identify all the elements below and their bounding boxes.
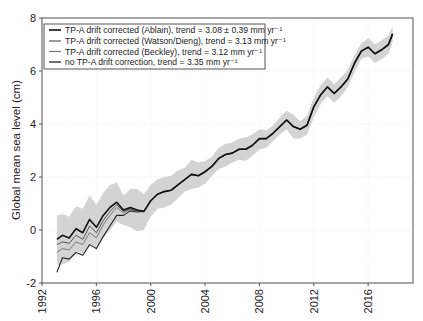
x-axis-ticks: 1992199620002004200820122016 — [36, 283, 374, 313]
y-tick-label: 8 — [30, 12, 36, 24]
y-axis-ticks: -202468 — [26, 12, 42, 289]
y-tick-label: 2 — [30, 171, 36, 183]
legend-item-no-correction: no TP-A drift correction, trend = 3.35 m… — [49, 57, 238, 67]
sea-level-chart: -202468 1992199620002004200820122016 Glo… — [0, 0, 423, 321]
y-tick-label: 6 — [30, 65, 36, 77]
y-tick-label: -2 — [26, 277, 36, 289]
x-tick-label: 2012 — [308, 289, 320, 313]
legend-label-no-correction: no TP-A drift correction, trend = 3.35 m… — [65, 57, 238, 67]
x-tick-label: 2008 — [253, 289, 265, 313]
x-tick-label: 1992 — [36, 289, 48, 313]
x-tick-label: 2004 — [199, 289, 211, 313]
y-tick-label: 0 — [30, 224, 36, 236]
legend-item-beckley: TP-A drift corrected (Beckley), trend = … — [49, 47, 262, 57]
legend-label-watson-dieng: TP-A drift corrected (Watson/Dieng), tre… — [65, 36, 286, 46]
legend-item-watson-dieng: TP-A drift corrected (Watson/Dieng), tre… — [49, 36, 286, 46]
x-tick-label: 2000 — [145, 289, 157, 313]
legend-item-ablain: TP-A drift corrected (Ablain), trend = 3… — [49, 25, 282, 35]
y-axis-label: Global mean sea level (cm) — [10, 80, 22, 220]
y-tick-label: 4 — [30, 118, 36, 130]
x-tick-label: 2016 — [362, 289, 374, 313]
x-tick-label: 1996 — [90, 289, 102, 313]
legend-label-beckley: TP-A drift corrected (Beckley), trend = … — [65, 47, 262, 57]
legend-label-ablain: TP-A drift corrected (Ablain), trend = 3… — [65, 25, 282, 35]
legend: TP-A drift corrected (Ablain), trend = 3… — [44, 24, 286, 69]
